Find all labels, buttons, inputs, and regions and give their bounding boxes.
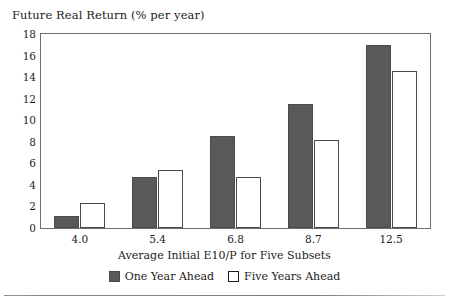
x-axis-tick-label: 12.5 bbox=[379, 233, 402, 245]
bar bbox=[158, 170, 183, 228]
y-axis-tick-labels: 181614121086420 bbox=[0, 33, 36, 229]
y-axis-tick-label: 2 bbox=[0, 201, 36, 211]
bar-group bbox=[197, 34, 275, 228]
chart-figure: Future Real Return (% per year) 18161412… bbox=[0, 0, 449, 304]
legend-item: One Year Ahead bbox=[109, 270, 214, 283]
bar-group bbox=[274, 34, 352, 228]
legend-item-label: One Year Ahead bbox=[125, 270, 214, 283]
x-axis-tick-label: 5.4 bbox=[149, 233, 166, 245]
bar-group bbox=[119, 34, 197, 228]
y-axis-tick-label: 16 bbox=[0, 51, 36, 61]
bars-layer bbox=[41, 34, 430, 228]
bar bbox=[80, 203, 105, 228]
bar bbox=[132, 177, 157, 228]
bar bbox=[54, 216, 79, 228]
x-axis-tick-label: 8.7 bbox=[305, 233, 322, 245]
x-axis-tick-labels: 4.05.46.88.712.5 bbox=[41, 233, 430, 249]
y-axis-tick-label: 6 bbox=[0, 158, 36, 168]
chart-legend: One Year AheadFive Years Ahead bbox=[0, 270, 449, 283]
legend-item: Five Years Ahead bbox=[228, 270, 340, 283]
x-axis-tick-label: 6.8 bbox=[227, 233, 244, 245]
bar bbox=[314, 140, 339, 228]
filled-dark-swatch bbox=[109, 271, 120, 282]
bar-group bbox=[41, 34, 119, 228]
bar bbox=[392, 71, 417, 228]
bar bbox=[288, 104, 313, 228]
x-axis-title: Average Initial E10/P for Five Subsets bbox=[0, 249, 449, 262]
bar bbox=[210, 136, 235, 228]
bar bbox=[366, 45, 391, 228]
footer-divider bbox=[4, 295, 445, 296]
y-axis-tick-label: 10 bbox=[0, 115, 36, 125]
x-axis-tick-label: 4.0 bbox=[72, 233, 89, 245]
bar-group bbox=[352, 34, 430, 228]
y-axis-tick-label: 8 bbox=[0, 137, 36, 147]
y-axis-tick-label: 0 bbox=[0, 223, 36, 233]
y-axis-tick-label: 14 bbox=[0, 72, 36, 82]
y-axis-tick-label: 18 bbox=[0, 29, 36, 39]
y-axis-tick-label: 12 bbox=[0, 94, 36, 104]
legend-item-label: Five Years Ahead bbox=[244, 270, 340, 283]
open-white-swatch bbox=[228, 271, 239, 282]
bar bbox=[236, 177, 261, 228]
y-axis-tick-label: 4 bbox=[0, 180, 36, 190]
chart-title: Future Real Return (% per year) bbox=[12, 8, 205, 22]
